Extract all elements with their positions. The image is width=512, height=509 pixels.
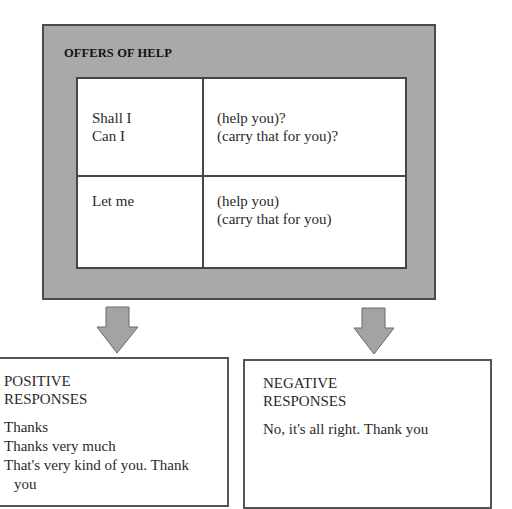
heading-line: NEGATIVE (263, 374, 490, 392)
positive-heading: POSITIVE RESPONSES (4, 372, 227, 408)
offers-table: Shall I Can I (help you)? (carry that fo… (76, 77, 407, 269)
row-1-right-cell: (help you)? (carry that for you)? (217, 109, 338, 145)
arrow-down-icon (352, 307, 398, 357)
positive-list: Thanks Thanks very much That's very kind… (4, 418, 227, 494)
phrase: (help you)? (217, 109, 338, 127)
phrase: Let me (92, 192, 134, 210)
heading-line: RESPONSES (263, 392, 490, 410)
phrase: (help you) (217, 192, 332, 210)
heading-line: POSITIVE (4, 372, 227, 390)
column-divider (202, 79, 204, 267)
positive-responses-box: POSITIVE RESPONSES Thanks Thanks very mu… (0, 357, 229, 507)
row-2-right-cell: (help you) (carry that for you) (217, 192, 332, 228)
arrow-down-icon (95, 306, 141, 356)
row-1-left-cell: Shall I Can I (92, 109, 132, 145)
offers-of-help-panel: OFFERS OF HELP Shall I Can I (help you)?… (42, 24, 436, 300)
phrase: Can I (92, 127, 132, 145)
row-divider (78, 175, 405, 177)
negative-heading: NEGATIVE RESPONSES (263, 374, 490, 410)
list-item: No, it's all right. Thank you (263, 420, 490, 439)
list-item: That's very kind of you. Thank (4, 456, 227, 475)
phrase: (carry that for you) (217, 210, 332, 228)
negative-list: No, it's all right. Thank you (263, 420, 490, 439)
phrase: Shall I (92, 109, 132, 127)
list-item: Thanks very much (4, 437, 227, 456)
panel-title: OFFERS OF HELP (64, 46, 172, 61)
negative-responses-box: NEGATIVE RESPONSES No, it's all right. T… (243, 359, 492, 509)
row-2-left-cell: Let me (92, 192, 134, 210)
list-item: Thanks (4, 418, 227, 437)
heading-line: RESPONSES (4, 390, 227, 408)
phrase: (carry that for you)? (217, 127, 338, 145)
list-item: you (4, 475, 227, 494)
